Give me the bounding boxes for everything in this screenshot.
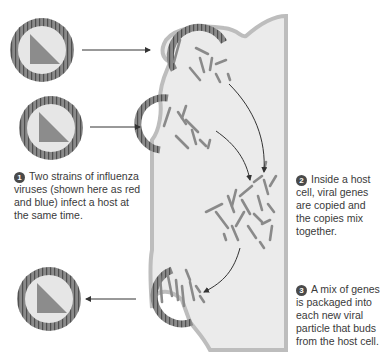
step-1-caption: 1Two strains of influenza viruses (shown… bbox=[14, 170, 144, 222]
step-text: Two strains of influenza viruses (shown … bbox=[14, 170, 140, 221]
step-3-caption: 3A mix of genes is packaged into each ne… bbox=[296, 283, 382, 348]
virus-particle-1 bbox=[10, 18, 74, 82]
step-badge: 3 bbox=[296, 285, 307, 296]
virus-particle-2 bbox=[19, 96, 83, 160]
step-badge: 1 bbox=[14, 172, 25, 183]
step-2-caption: 2Inside a host cell, viral genes are cop… bbox=[296, 173, 382, 238]
step-text: Inside a host cell, viral genes are copi… bbox=[296, 173, 371, 237]
step-text: A mix of genes is packaged into each new… bbox=[296, 283, 380, 347]
step-badge: 2 bbox=[296, 175, 307, 186]
virus-particle-mixed bbox=[17, 267, 81, 331]
